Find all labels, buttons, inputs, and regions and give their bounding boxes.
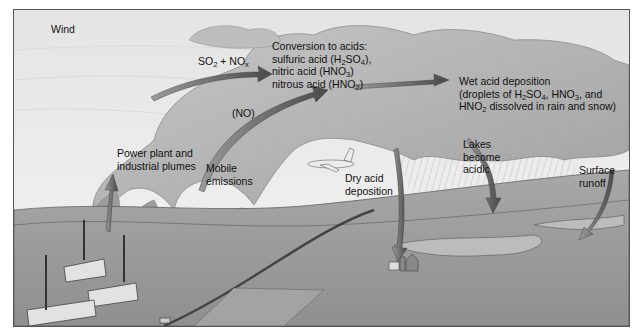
label-surface-runoff: Surfacerunoff xyxy=(579,164,615,189)
car xyxy=(160,318,170,323)
label-wind: Wind xyxy=(51,23,75,36)
label-wet-acid-deposition: Wet acid deposition (droplets of H2SO4, … xyxy=(459,75,616,113)
acid-deposition-diagram: Wind SO2 + NOx Conversion to acids: sulf… xyxy=(13,9,630,327)
label-dry-acid-deposition: Dry aciddeposition xyxy=(345,172,393,197)
label-lakes-acidic: Lakesbecomeacidic xyxy=(463,138,500,176)
label-mobile-emissions: Mobileemissions xyxy=(206,162,253,187)
label-so2-nox: SO2 + NOx xyxy=(198,55,249,68)
label-no: (NO) xyxy=(232,107,255,120)
label-conversion-to-acids: Conversion to acids: sulfuric acid (H2SO… xyxy=(272,40,371,90)
label-power-plant: Power plant andindustrial plumes xyxy=(117,147,196,172)
